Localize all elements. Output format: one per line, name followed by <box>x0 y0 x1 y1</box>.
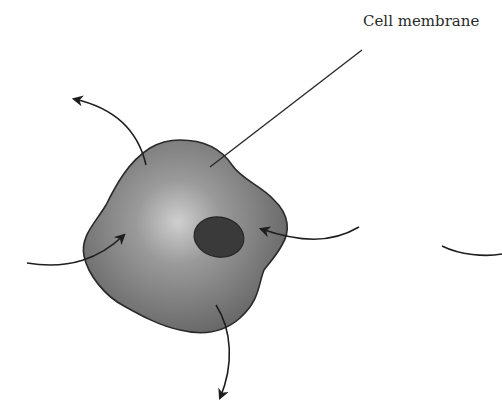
outward-arrow-top-left <box>74 99 146 165</box>
cell-body <box>83 140 287 333</box>
partial-arc-right-edge <box>442 246 502 255</box>
diagram-canvas: Cell membrane <box>0 0 502 415</box>
cell-membrane-leader-line <box>210 50 362 167</box>
cell-diagram <box>0 0 502 415</box>
cell-membrane-label: Cell membrane <box>363 12 479 30</box>
